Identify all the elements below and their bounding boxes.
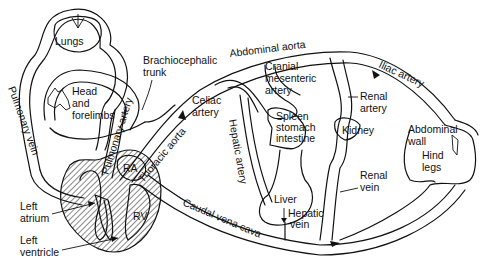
cranial-mesenteric-label-1: Cranial	[265, 60, 298, 72]
renal-vein-label-1: Renal	[360, 169, 387, 181]
liver-label: Liver	[274, 193, 297, 205]
left-atrium-label-2: atrium	[20, 212, 49, 224]
left-ventricle-label-2: ventricle	[20, 246, 59, 258]
hind-legs-label-1: Hind	[422, 149, 444, 161]
rv-label: RV	[133, 210, 147, 222]
hepatic-artery-label: Hepatic artery	[227, 118, 250, 185]
horse-head-icon	[48, 88, 70, 110]
iliac-hind-circuit: Iliac artery Abdominal wall Hind legs	[340, 58, 478, 240]
left-ventricle-label-1: Left	[20, 234, 38, 246]
celiac-label-1: Celiac	[192, 94, 221, 106]
ra-label: RA	[123, 162, 138, 174]
cranial-mesenteric-label-3: artery	[265, 84, 293, 96]
head-label-2: and	[72, 97, 90, 109]
left-atrium-label-1: Left	[20, 200, 38, 212]
renal-artery-label-2: artery	[360, 102, 388, 114]
renal-circuit: Kidney Renal artery Renal vein	[320, 58, 388, 240]
spleen-stomach-intestine: Spleen stomach intestine	[268, 108, 316, 149]
hind-legs-label-2: legs	[422, 161, 441, 173]
kidney-label: Kidney	[342, 124, 375, 136]
head-label-3: forelimbs	[72, 109, 115, 121]
cranial-mesenteric-label-2: mesenteric	[265, 72, 316, 84]
hepatic-vein-label-2: vein	[290, 218, 309, 230]
spleen-label-3: intestine	[276, 132, 315, 144]
renal-vein-label-2: vein	[360, 181, 379, 193]
heart: RA RV	[61, 150, 161, 252]
pulmonary-vein-label: Pulmonary vein	[6, 85, 42, 157]
brachiocephalic-label-1: Brachiocephalic	[143, 54, 217, 66]
abdominal-wall-label-2: wall	[407, 135, 426, 147]
abdominal-wall-label-1: Abdominal	[408, 123, 458, 135]
lungs-label: Lungs	[55, 35, 84, 47]
renal-artery-label-1: Renal	[360, 90, 387, 102]
hoof-icon	[452, 135, 458, 155]
celiac-hepatic-circuit: Celiac artery Hepatic artery	[192, 80, 285, 205]
celiac-label-2: artery	[192, 106, 220, 118]
brachiocephalic-label-2: trunk	[143, 66, 167, 78]
caudal-vena-cava-label: Caudal vena cava	[181, 196, 263, 240]
circulation-diagram: Pulmonary vein Pulmonary artery Brachioc…	[0, 0, 481, 271]
iliac-artery-label: Iliac artery	[377, 58, 427, 90]
head-label-1: Head	[72, 85, 97, 97]
